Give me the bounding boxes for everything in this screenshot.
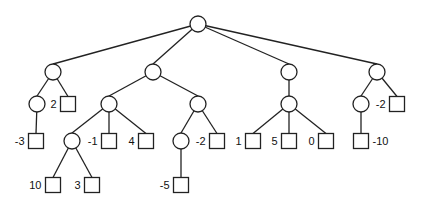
leaf-node xyxy=(282,134,297,149)
leaf-node xyxy=(139,134,154,149)
tree-edges xyxy=(36,24,397,178)
leaf-value-label: 3 xyxy=(74,179,80,191)
leaf-node xyxy=(102,134,117,149)
decision-node xyxy=(101,96,117,112)
game-tree-diagram: 2-3-14103-2-5150-2-10 xyxy=(0,0,421,203)
decision-node xyxy=(281,64,297,80)
decision-node xyxy=(281,96,297,112)
leaf-node xyxy=(319,134,334,149)
leaf-node xyxy=(85,178,100,193)
decision-node xyxy=(369,64,385,80)
leaf-value-label: -5 xyxy=(160,179,170,191)
decision-node xyxy=(29,96,45,112)
leaf-value-label: -1 xyxy=(88,135,98,147)
decision-node xyxy=(64,133,80,149)
leaf-node xyxy=(61,97,76,112)
decision-node xyxy=(353,96,369,112)
leaf-value-label: 2 xyxy=(50,98,56,110)
leaf-value-label: 1 xyxy=(235,135,241,147)
leaf-node xyxy=(390,97,405,112)
tree-edge xyxy=(198,24,377,64)
root-node xyxy=(190,16,206,32)
leaf-value-label: 4 xyxy=(128,135,134,147)
leaf-value-label: 0 xyxy=(308,135,314,147)
decision-node xyxy=(190,96,206,112)
tree-nodes: 2-3-14103-2-5150-2-10 xyxy=(15,16,405,193)
leaf-value-label: -3 xyxy=(15,135,25,147)
leaf-node xyxy=(46,178,61,193)
leaf-node xyxy=(29,134,44,149)
decision-node xyxy=(45,64,61,80)
leaf-value-label: 10 xyxy=(29,179,41,191)
leaf-value-label: 5 xyxy=(271,135,277,147)
decision-node xyxy=(173,133,189,149)
leaf-node xyxy=(174,178,189,193)
leaf-node xyxy=(246,134,261,149)
leaf-value-label: -2 xyxy=(196,135,206,147)
decision-node xyxy=(145,64,161,80)
leaf-node xyxy=(354,134,369,149)
leaf-node xyxy=(210,134,225,149)
leaf-value-label: -10 xyxy=(373,135,389,147)
tree-edge xyxy=(198,24,289,64)
leaf-value-label: -2 xyxy=(376,98,386,110)
